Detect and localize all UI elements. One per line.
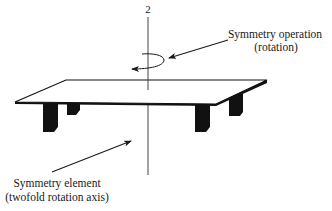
table-leg-front-right bbox=[195, 104, 210, 132]
element-pointer-arrow bbox=[52, 141, 131, 172]
element-label-line2: (twofold rotation axis) bbox=[5, 191, 109, 204]
operation-label-line2: (rotation) bbox=[254, 41, 298, 54]
operation-label-line1: Symmetry operation bbox=[228, 28, 322, 41]
table-leg-front-left bbox=[43, 104, 58, 132]
element-label-line1: Symmetry element bbox=[13, 177, 101, 190]
symmetry-diagram: 2 Symmetry operation (rotation) Symmetry… bbox=[0, 0, 332, 211]
operation-pointer-arrow bbox=[169, 40, 228, 58]
table-leg-back-left bbox=[67, 104, 80, 115]
axis-order-label: 2 bbox=[145, 3, 151, 15]
